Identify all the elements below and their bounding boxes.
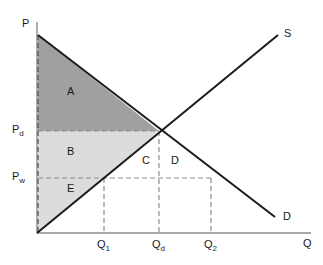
demand-curve-label: D [283, 211, 291, 222]
region-b-label: B [67, 146, 74, 157]
quantity-q1-sub: 1 [106, 244, 110, 253]
y-axis-label: P [22, 18, 29, 29]
chart-canvas [0, 0, 323, 265]
region-a-label: A [67, 86, 74, 97]
quantity-q2-sub: 2 [213, 244, 217, 253]
quantity-qd-main: Q [152, 238, 161, 250]
quantity-q2-label: Q2 [204, 239, 217, 253]
quantity-qd-sub: d [161, 244, 165, 253]
supply-demand-diagram: P Q S D Pd Pw Q1 Qd Q2 A B C D E [0, 0, 323, 265]
price-pd-sub: d [19, 129, 23, 138]
price-pw-label: Pw [12, 171, 25, 185]
region-d-label: D [171, 155, 179, 166]
quantity-qd-label: Qd [152, 239, 165, 253]
quantity-q1-label: Q1 [97, 239, 110, 253]
price-pw-sub: w [19, 176, 25, 185]
quantity-q2-main: Q [204, 238, 213, 250]
supply-curve-label: S [284, 28, 291, 39]
price-pd-label: Pd [12, 124, 24, 138]
quantity-q1-main: Q [97, 238, 106, 250]
region-e-label: E [67, 183, 74, 194]
region-c-label: C [142, 155, 150, 166]
x-axis-label: Q [303, 238, 312, 249]
region-b-shape [38, 131, 159, 178]
